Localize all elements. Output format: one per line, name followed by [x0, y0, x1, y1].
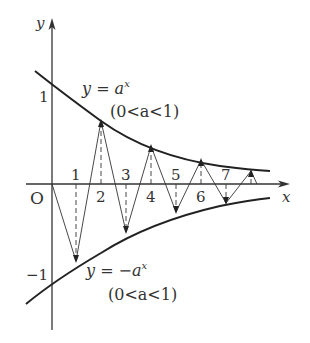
- upper-eq-exp: x: [124, 78, 130, 89]
- point-label-3: 3: [121, 166, 131, 184]
- point-label-4: 4: [146, 188, 156, 206]
- lower-eq-exp: x: [142, 260, 148, 271]
- upper-curve: [35, 71, 270, 171]
- oscillation-diagram: y x O 1 −1 1 2 3 4 5 6 7 y = ax (0<a<1) …: [0, 0, 310, 343]
- svg-text:y = ax: y = ax: [81, 78, 130, 98]
- point-label-6: 6: [196, 188, 206, 206]
- lower-eq-main: y = −a: [85, 261, 142, 280]
- upper-equation: y = ax (0<a<1): [81, 78, 179, 121]
- point-label-5: 5: [171, 166, 181, 184]
- origin-label: O: [30, 188, 44, 208]
- lower-equation: y = −ax (0<a<1): [85, 260, 177, 304]
- point-label-7: 7: [221, 166, 231, 184]
- y-axis-label: y: [35, 14, 45, 32]
- x-axis-label: x: [282, 188, 291, 206]
- svg-text:y = −ax: y = −ax: [85, 260, 148, 280]
- lower-eq-cond: (0<a<1): [108, 285, 177, 304]
- upper-eq-main: y = a: [81, 79, 124, 98]
- y-tick-1: 1: [39, 88, 49, 106]
- x-axis: [26, 181, 290, 188]
- y-tick-neg-1: −1: [26, 266, 48, 284]
- point-label-2: 2: [96, 188, 106, 206]
- point-label-1: 1: [71, 166, 81, 184]
- upper-eq-cond: (0<a<1): [110, 102, 179, 121]
